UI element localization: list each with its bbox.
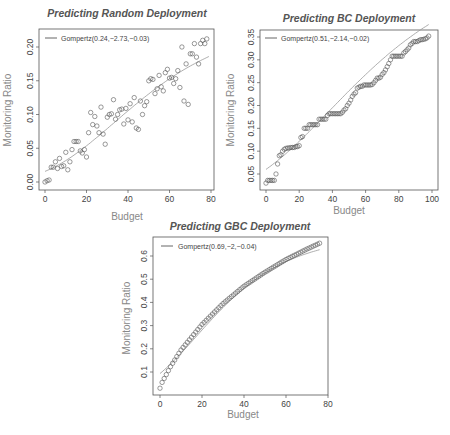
data-point xyxy=(95,124,99,128)
y-tick-label: 0.15 xyxy=(246,120,256,137)
y-tick-label: 0.5 xyxy=(139,273,149,285)
data-point xyxy=(145,100,149,104)
data-point xyxy=(132,95,136,99)
y-tick-label: 0.00 xyxy=(25,173,35,190)
data-point xyxy=(128,102,132,106)
data-point xyxy=(164,372,168,376)
data-point xyxy=(97,131,101,135)
data-point xyxy=(165,67,169,71)
x-tick-label: 80 xyxy=(323,399,333,409)
data-point xyxy=(64,150,68,154)
y-axis: 0.000.050.100.150.20 xyxy=(25,38,39,190)
data-point xyxy=(66,168,70,172)
y-axis-label: Monitoring Ratio xyxy=(225,73,236,146)
data-point xyxy=(174,77,178,81)
data-point xyxy=(159,85,163,89)
y-tick-label: 0.30 xyxy=(246,51,256,68)
data-point xyxy=(70,147,74,151)
panel-bc: Predicting BC Deployment 020406080100 0.… xyxy=(225,12,439,216)
x-tick-label: 80 xyxy=(206,194,216,204)
data-point xyxy=(84,155,88,159)
plot-frame xyxy=(260,30,438,190)
x-tick-label: 20 xyxy=(82,194,92,204)
y-tick-label: 0.3 xyxy=(139,319,149,331)
data-point xyxy=(140,112,144,116)
x-axis: 020406080100 xyxy=(264,190,440,204)
x-tick-label: 20 xyxy=(197,399,207,409)
data-point xyxy=(192,41,196,45)
y-tick-label: 0.05 xyxy=(246,165,256,182)
panel-title: Predicting GBC Deployment xyxy=(170,220,311,232)
y-tick-label: 0.20 xyxy=(246,97,256,114)
data-point xyxy=(158,386,162,390)
data-point xyxy=(99,105,103,109)
plot-frame xyxy=(39,29,214,190)
x-axis-label: Budget xyxy=(227,409,259,420)
data-point xyxy=(161,89,165,93)
data-point xyxy=(201,38,205,42)
legend: Gompertz(0.69,−2,−0.04) xyxy=(161,243,257,251)
data-point xyxy=(93,114,97,118)
data-point xyxy=(82,147,86,151)
data-point xyxy=(205,37,209,41)
data-point xyxy=(196,62,200,66)
data-point xyxy=(91,122,95,126)
y-axis-label: Monitoring Ratio xyxy=(121,281,132,354)
x-tick-label: 0 xyxy=(158,399,163,409)
panel-title: Predicting Random Deployment xyxy=(47,7,207,19)
data-point xyxy=(57,156,61,160)
x-tick-label: 40 xyxy=(328,194,338,204)
data-point xyxy=(53,160,57,164)
x-tick-label: 60 xyxy=(165,194,175,204)
y-tick-label: 0.1 xyxy=(139,366,149,378)
x-axis: 020406080 xyxy=(43,190,216,204)
data-point xyxy=(182,99,186,103)
x-tick-label: 0 xyxy=(264,194,269,204)
y-tick-label: 0.05 xyxy=(25,140,35,157)
data-point xyxy=(186,102,190,106)
data-point xyxy=(126,118,130,122)
figure: Predicting Random Deployment 020406080 0… xyxy=(0,0,450,435)
y-tick-label: 0.15 xyxy=(25,72,35,89)
legend-label: Gompertz(0.51,−2.14,−0.02) xyxy=(281,35,369,43)
x-tick-label: 60 xyxy=(281,399,291,409)
data-point xyxy=(157,73,161,77)
plot-frame xyxy=(153,237,328,395)
data-point xyxy=(176,68,180,72)
y-tick-label: 0.20 xyxy=(25,38,35,55)
y-tick-label: 0.4 xyxy=(139,296,149,308)
data-point xyxy=(274,172,278,176)
data-point xyxy=(172,81,176,85)
data-point xyxy=(184,62,188,66)
panel-random: Predicting Random Deployment 020406080 0… xyxy=(2,7,216,222)
y-tick-label: 0.10 xyxy=(25,106,35,123)
data-point xyxy=(177,351,181,355)
data-point xyxy=(68,160,72,164)
legend: Gompertz(0.24,−2.73,−0.03) xyxy=(45,35,149,43)
data-point xyxy=(203,41,207,45)
data-points xyxy=(158,241,322,390)
y-axis: 0.10.20.30.40.50.6 xyxy=(139,250,153,378)
data-point xyxy=(275,162,279,166)
data-point xyxy=(55,166,59,170)
y-tick-label: 0.2 xyxy=(139,343,149,355)
x-tick-label: 20 xyxy=(294,194,304,204)
panel-title: Predicting BC Deployment xyxy=(283,12,416,24)
y-axis: 0.050.100.150.200.250.300.35 xyxy=(246,28,260,182)
legend: Gompertz(0.51,−2.14,−0.02) xyxy=(265,35,369,43)
data-point xyxy=(180,45,184,49)
data-point xyxy=(142,104,146,108)
data-point xyxy=(111,98,115,102)
y-tick-label: 0.6 xyxy=(139,250,149,262)
legend-label: Gompertz(0.69,−2,−0.04) xyxy=(178,243,257,251)
legend-label: Gompertz(0.24,−2.73,−0.03) xyxy=(61,35,149,43)
data-points xyxy=(264,34,431,185)
x-tick-label: 40 xyxy=(123,194,133,204)
x-axis-label: Budget xyxy=(333,205,365,216)
x-tick-label: 40 xyxy=(239,399,249,409)
data-point xyxy=(103,142,107,146)
data-point xyxy=(130,120,134,124)
y-tick-label: 0.10 xyxy=(246,143,256,160)
data-point xyxy=(178,85,182,89)
x-tick-label: 100 xyxy=(425,194,439,204)
